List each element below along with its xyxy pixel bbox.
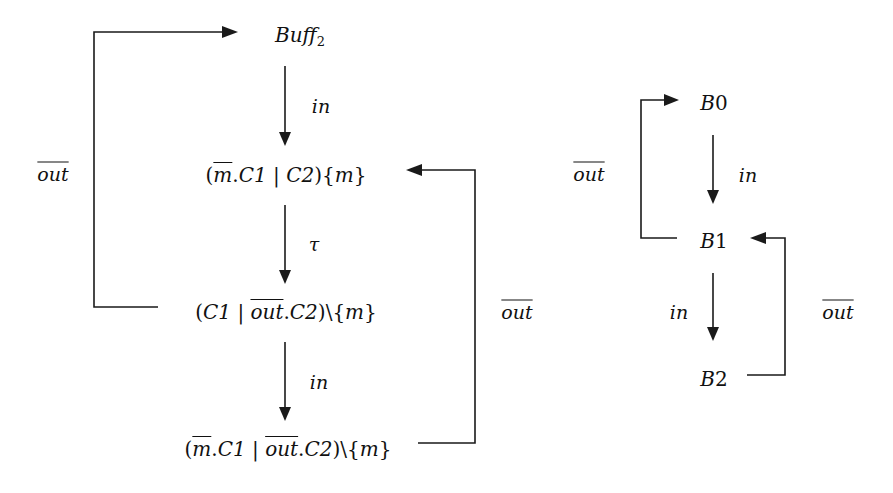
co-action-m: m xyxy=(213,163,232,187)
node-buff2: Buff2 xyxy=(275,25,325,48)
edge-label-tau: τ xyxy=(309,235,320,254)
edge-label-out-right: out xyxy=(501,303,532,322)
node-b2: B2 xyxy=(700,369,727,389)
buff-name: Buff xyxy=(275,23,317,47)
edge-state1-to-state2 xyxy=(279,205,291,284)
process-c1: C1 xyxy=(239,163,267,187)
edge-b1-to-b0-loop xyxy=(641,94,679,238)
process-c2: C2 xyxy=(290,300,318,324)
edge-label-out-left: out xyxy=(37,165,68,184)
edge-label-in-1: in xyxy=(312,97,330,116)
process-c1: C1 xyxy=(203,300,231,324)
co-action-out: out xyxy=(250,300,283,324)
restriction-close: } xyxy=(354,163,367,187)
paren-open: ( xyxy=(206,163,214,187)
restricted-name: m xyxy=(360,437,379,461)
process-c1: C1 xyxy=(218,437,246,461)
co-action-m: m xyxy=(192,437,211,461)
co-action-out: out xyxy=(265,437,298,461)
node-b1: B1 xyxy=(700,231,727,251)
edge-label-b1-b2: in xyxy=(670,303,688,322)
process-c2: C2 xyxy=(304,437,332,461)
edge-label-out-b1-b0: out xyxy=(573,165,604,184)
arrows-layer xyxy=(0,0,893,493)
restriction-close: } xyxy=(364,300,377,324)
node-state3: (m.C1 | out.C2)\{m} xyxy=(185,439,392,459)
node-b0: B0 xyxy=(700,93,727,113)
edge-b0-to-b1 xyxy=(707,135,719,204)
b2-index: 2 xyxy=(715,367,728,391)
buff-subscript: 2 xyxy=(317,34,325,49)
parallel-bar: | xyxy=(267,163,286,187)
paren-open: ( xyxy=(185,437,193,461)
edge-state3-to-state1-loop xyxy=(406,164,475,443)
parallel-bar: | xyxy=(231,300,250,324)
node-state2: (C1 | out.C2)\{m} xyxy=(195,302,377,322)
edge-state2-to-state3 xyxy=(279,342,291,421)
edge-label-in-2: in xyxy=(310,373,328,392)
b1-index: 1 xyxy=(715,229,728,253)
edge-b2-to-b1-loop xyxy=(747,232,785,375)
process-c2: C2 xyxy=(286,163,314,187)
b0-index: 0 xyxy=(715,91,728,115)
edge-b1-to-b2 xyxy=(707,273,719,341)
edge-buff2-to-state1 xyxy=(279,66,291,146)
restricted-name: m xyxy=(335,163,354,187)
edge-label-b0-b1: in xyxy=(739,166,757,185)
restriction-close: } xyxy=(379,437,392,461)
transition-diagram: Buff2 (m.C1 | C2){m} (C1 | out.C2)\{m} (… xyxy=(0,0,893,493)
b0-letter: B xyxy=(700,91,715,115)
paren-open: ( xyxy=(195,300,203,324)
edge-label-out-b2-b1: out xyxy=(822,303,853,322)
restriction-open: \{ xyxy=(326,300,345,324)
b2-letter: B xyxy=(700,367,715,391)
restriction-open: { xyxy=(322,163,335,187)
node-state1: (m.C1 | C2){m} xyxy=(206,165,367,185)
restriction-open: \{ xyxy=(340,437,359,461)
paren-close: ) xyxy=(333,437,341,461)
b1-letter: B xyxy=(700,229,715,253)
parallel-bar: | xyxy=(246,437,265,461)
restricted-name: m xyxy=(345,300,364,324)
